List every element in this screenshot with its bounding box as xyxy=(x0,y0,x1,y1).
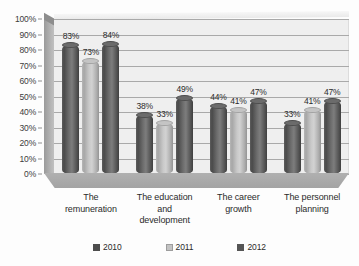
y-tick-mark xyxy=(38,19,42,20)
y-axis: 100%90%80%70%60%50%40%30%20%10%0% xyxy=(0,14,44,188)
y-tick-mark xyxy=(38,174,42,175)
y-tick-label: 60% xyxy=(20,76,36,86)
y-tick-label: 0% xyxy=(24,169,36,179)
bar[interactable]: 73% xyxy=(82,61,99,174)
x-axis-label: The personnelplanning xyxy=(275,192,349,215)
bar[interactable]: 41% xyxy=(230,110,247,174)
bar[interactable]: 33% xyxy=(284,123,301,174)
y-tick-mark xyxy=(38,112,42,113)
bar[interactable]: 84% xyxy=(102,44,119,174)
plot-area: 83%73%84%38%33%49%44%41%47%33%41%47% xyxy=(44,14,349,188)
bar-value-label: 38% xyxy=(136,101,152,111)
bar-top-ellipse xyxy=(82,58,99,64)
bar[interactable]: 38% xyxy=(136,115,153,174)
y-tick-mark xyxy=(38,65,42,66)
bar-value-label: 84% xyxy=(103,30,119,40)
legend-swatch-icon xyxy=(166,244,173,251)
bar[interactable]: 44% xyxy=(210,106,227,174)
y-tick-mark xyxy=(38,143,42,144)
bar[interactable]: 47% xyxy=(250,101,267,174)
legend-label: 2011 xyxy=(176,242,194,252)
y-tick-label: 80% xyxy=(20,45,36,55)
bar-value-label: 47% xyxy=(324,87,340,97)
x-axis-label-line: The education xyxy=(128,192,202,204)
y-tick-mark xyxy=(38,81,42,82)
legend: 201020112012 xyxy=(0,242,359,252)
bar-top-ellipse xyxy=(284,120,301,126)
x-axis-labels: TheremunerationThe educationanddevelopme… xyxy=(44,192,349,236)
bar-chart: 100%90%80%70%60%50%40%30%20%10%0% 83%73%… xyxy=(0,0,359,266)
x-axis-label-line: planning xyxy=(275,204,349,216)
x-axis-label-line: growth xyxy=(202,204,276,216)
bar-value-label: 47% xyxy=(250,87,266,97)
y-tick-label: 30% xyxy=(20,123,36,133)
bar-top-ellipse xyxy=(176,95,193,101)
y-tick-label: 40% xyxy=(20,107,36,117)
x-axis-label-line: remuneration xyxy=(54,204,128,216)
bar-value-label: 44% xyxy=(210,92,226,102)
y-tick-label: 70% xyxy=(20,61,36,71)
bar-group: 83%73%84% xyxy=(54,19,128,174)
legend-label: 2010 xyxy=(103,242,122,252)
bar[interactable]: 83% xyxy=(62,45,79,174)
bars-layer: 83%73%84%38%33%49%44%41%47%33%41%47% xyxy=(54,19,349,174)
x-axis-label: The careergrowth xyxy=(202,192,276,215)
x-axis-label-line: The xyxy=(54,192,128,204)
bar-top-ellipse xyxy=(210,103,227,109)
y-tick-label: 90% xyxy=(20,30,36,40)
chart-floor xyxy=(44,173,349,188)
y-tick-mark xyxy=(38,158,42,159)
bar-top-ellipse xyxy=(230,107,247,113)
bar-value-label: 33% xyxy=(284,109,300,119)
y-tick-mark xyxy=(38,50,42,51)
bar-value-label: 49% xyxy=(176,84,192,94)
legend-swatch-icon xyxy=(93,244,100,251)
bar[interactable]: 41% xyxy=(304,110,321,174)
legend-item[interactable]: 2012 xyxy=(237,242,266,252)
y-tick-label: 20% xyxy=(20,138,36,148)
y-tick-mark xyxy=(38,96,42,97)
bar-top-ellipse xyxy=(304,107,321,113)
bar-top-ellipse xyxy=(156,120,173,126)
bar-group: 33%41%47% xyxy=(275,19,349,174)
legend-swatch-icon xyxy=(237,244,244,251)
y-tick-label: 100% xyxy=(15,14,36,24)
bar-value-label: 73% xyxy=(83,47,99,57)
bar-group: 38%33%49% xyxy=(128,19,202,174)
legend-label: 2012 xyxy=(247,242,266,252)
bar-group: 44%41%47% xyxy=(202,19,276,174)
x-axis-label-line: development xyxy=(128,215,202,227)
bar-top-ellipse xyxy=(136,112,153,118)
bar[interactable]: 47% xyxy=(324,101,341,174)
bar-value-label: 41% xyxy=(304,96,320,106)
x-axis-label: The educationanddevelopment xyxy=(128,192,202,227)
y-tick-label: 10% xyxy=(20,154,36,164)
legend-item[interactable]: 2011 xyxy=(166,242,194,252)
x-axis-label-line: The personnel xyxy=(275,192,349,204)
y-tick-label: 50% xyxy=(20,92,36,102)
bar-top-ellipse xyxy=(102,41,119,47)
bar[interactable]: 49% xyxy=(176,98,193,174)
bar-top-ellipse xyxy=(62,42,79,48)
bar-value-label: 83% xyxy=(63,31,79,41)
bar[interactable]: 33% xyxy=(156,123,173,174)
bar-value-label: 41% xyxy=(230,96,246,106)
bar-value-label: 33% xyxy=(156,109,172,119)
legend-item[interactable]: 2010 xyxy=(93,242,122,252)
x-axis-label: Theremuneration xyxy=(54,192,128,215)
y-tick-mark xyxy=(38,127,42,128)
y-tick-mark xyxy=(38,34,42,35)
bar-top-ellipse xyxy=(324,98,341,104)
x-axis-label-line: The career xyxy=(202,192,276,204)
x-axis-label-line: and xyxy=(128,204,202,216)
bar-top-ellipse xyxy=(250,98,267,104)
